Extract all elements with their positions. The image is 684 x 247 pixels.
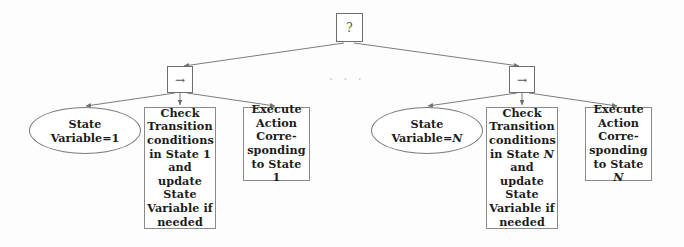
check-line-6: State	[505, 187, 538, 201]
execute-line-3: Corre-	[598, 129, 639, 143]
execute-line-3: Corre-	[256, 129, 297, 143]
check-line-8: needed	[499, 215, 545, 229]
check-line-4: in State 1	[149, 147, 211, 161]
check-line-3: conditions	[489, 133, 556, 147]
state-index-var: N	[544, 147, 554, 161]
check-line-5: and update	[500, 160, 544, 188]
state-index-var: N	[452, 131, 462, 145]
condition-line-2: Variable=N	[391, 131, 462, 145]
behavior-tree-diagram: ? · · · → State Variable=1 Check Transit…	[0, 0, 684, 247]
root-fallback-node[interactable]: ?	[336, 13, 363, 42]
check-line-2: Transition	[489, 119, 554, 133]
fallback-question-glyph: ?	[346, 21, 352, 33]
execute-line-4: sponding	[589, 143, 648, 157]
execute-line-5: to State N	[593, 157, 643, 185]
execute-line-4: sponding	[247, 143, 306, 157]
execute-line-1: Execute	[251, 102, 301, 116]
action-execute-1[interactable]: Execute Action Corre- sponding to State …	[243, 107, 310, 181]
check-line-8: needed	[157, 215, 203, 229]
check-line-6: State	[163, 187, 196, 201]
condition-state-variable-n[interactable]: State Variable=N	[371, 107, 483, 154]
check-line-2: Transition	[147, 119, 212, 133]
action-execute-n[interactable]: Execute Action Corre- sponding to State …	[585, 107, 652, 181]
check-line-1: Check	[502, 106, 541, 120]
condition-line-1: State	[411, 117, 444, 131]
action-check-transition-n[interactable]: Check Transition conditions in State N a…	[486, 107, 558, 229]
execute-line-1: Execute	[593, 102, 643, 116]
action-check-transition-1[interactable]: Check Transition conditions in State 1 a…	[144, 107, 216, 229]
sequence-node-n[interactable]: →	[509, 66, 535, 93]
execute-line-2: Action	[256, 116, 297, 130]
sequence-arrow-glyph: →	[175, 73, 185, 85]
ellipsis-between-branches: · · ·	[329, 73, 365, 86]
check-line-7: Variable if	[147, 201, 213, 215]
condition-line-1: State	[69, 117, 102, 131]
sequence-arrow-glyph: →	[517, 73, 527, 85]
condition-state-variable-1[interactable]: State Variable=1	[29, 107, 141, 154]
execute-line-5: to State 1	[251, 157, 301, 185]
execute-line-2: Action	[598, 116, 639, 130]
check-line-7: Variable if	[489, 201, 555, 215]
condition-line-2: Variable=1	[51, 131, 120, 145]
state-index-var: N	[613, 170, 623, 184]
check-line-3: conditions	[147, 133, 214, 147]
check-line-5: and update	[158, 160, 202, 188]
check-line-1: Check	[160, 106, 199, 120]
check-line-4: in State N	[490, 147, 554, 161]
sequence-node-1[interactable]: →	[167, 66, 193, 93]
